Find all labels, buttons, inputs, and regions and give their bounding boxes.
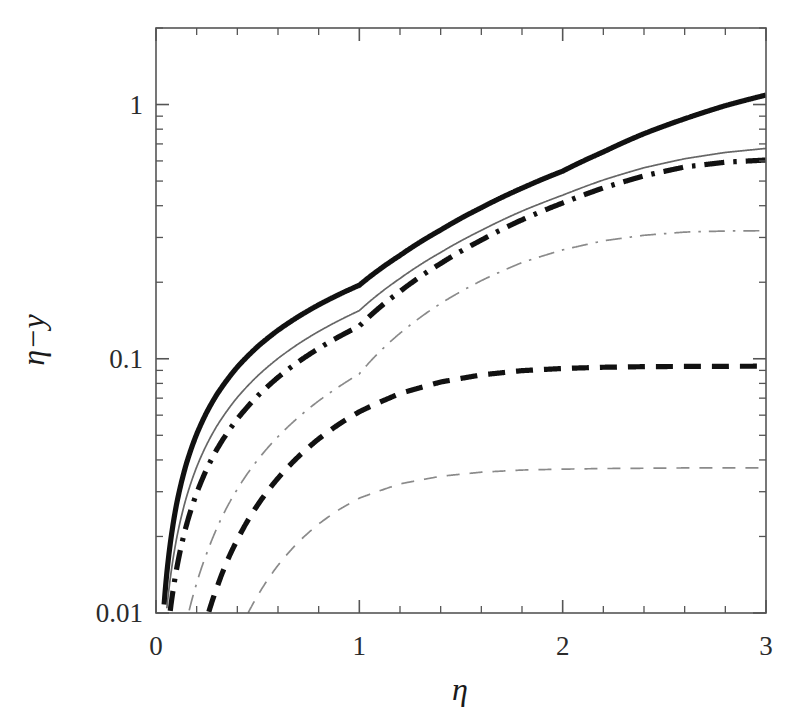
- y-axis-title: η−y: [15, 313, 51, 365]
- y-tick-label: 1: [130, 90, 144, 120]
- x-tick-label: 2: [556, 631, 570, 661]
- x-tick-label: 0: [149, 631, 163, 661]
- x-axis-title: η: [452, 671, 468, 707]
- x-tick-label: 3: [759, 631, 773, 661]
- plot-canvas: 0123 0.010.11 η η−y: [0, 0, 800, 717]
- y-tick-label: 0.1: [109, 344, 143, 374]
- y-tick-label: 0.01: [96, 598, 143, 628]
- figure-root: 0123 0.010.11 η η−y: [0, 0, 800, 717]
- x-tick-label: 1: [353, 631, 367, 661]
